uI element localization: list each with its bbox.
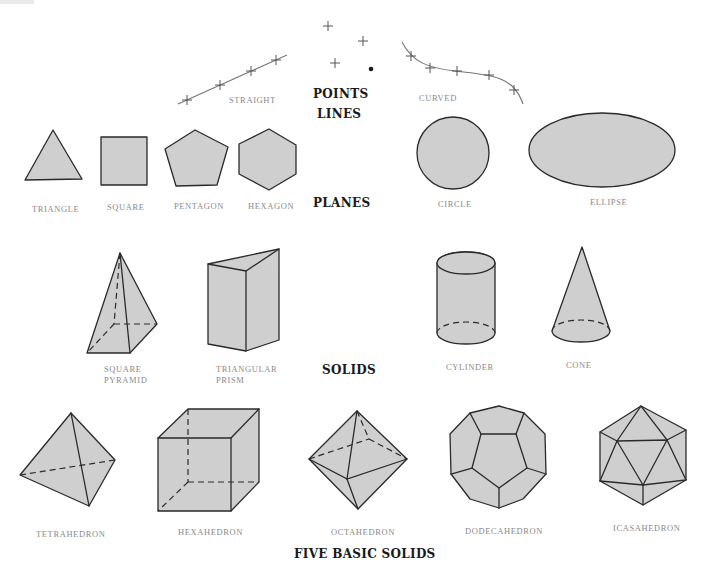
square-label: SQUARE: [107, 202, 145, 213]
hexahedron-solid: [158, 409, 259, 511]
five-basic-solids-heading: FIVE BASIC SOLIDS: [294, 547, 436, 561]
lines-heading: LINES: [317, 107, 361, 121]
dodecahedron-label: DODECAHEDRON: [465, 526, 543, 537]
points-heading: POINTS: [313, 87, 368, 101]
planes-heading: PLANES: [313, 196, 370, 210]
dodecahedron-solid: [450, 406, 546, 508]
square-pyramid-label-2: PYRAMID: [104, 375, 147, 386]
circle-shape: [417, 117, 489, 189]
octahedron-solid: [309, 411, 407, 509]
geometry-diagram: [0, 0, 702, 568]
points-group: [323, 21, 368, 68]
hexahedron-label: HEXAHEDRON: [178, 527, 243, 538]
solids-heading: SOLIDS: [322, 363, 376, 377]
curved-line-label: CURVED: [419, 93, 457, 104]
hexagon-shape: [239, 129, 296, 190]
tetrahedron-label: TETRAHEDRON: [36, 529, 105, 540]
octahedron-label: OCTAHEDRON: [331, 527, 395, 538]
ellipse-shape: [529, 113, 675, 187]
ellipse-label: ELLIPSE: [590, 197, 627, 208]
square-shape: [101, 137, 147, 185]
hexagon-label: HEXAGON: [248, 201, 294, 212]
triangular-prism-label-1: TRIANGULAR: [216, 364, 277, 375]
point-cross-icon: [358, 36, 368, 46]
circle-label: CIRCLE: [438, 199, 472, 210]
icosahedron-label: ICASAHEDRON: [613, 523, 681, 534]
cone-solid: [552, 247, 610, 342]
triangle-label: TRIANGLE: [32, 204, 79, 215]
icosahedron-solid: [600, 406, 686, 505]
pentagon-label: PENTAGON: [174, 201, 224, 212]
cylinder-label: CYLINDER: [446, 362, 494, 373]
square-pyramid-label-1: SQUARE: [104, 364, 142, 375]
cone-label: CONE: [566, 360, 592, 371]
cylinder-solid: [437, 252, 495, 344]
straight-line-label: STRAIGHT: [229, 95, 276, 106]
point-cross-icon: [330, 58, 340, 68]
triangular-prism-label-2: PRISM: [216, 375, 245, 386]
square-pyramid-solid: [87, 253, 157, 353]
pentagon-shape: [165, 130, 228, 186]
point-cross-icon: [323, 21, 333, 31]
triangular-prism-solid: [208, 249, 279, 351]
tetrahedron-solid: [20, 413, 115, 506]
triangle-shape: [25, 130, 82, 180]
point-dot-icon: [369, 67, 374, 72]
